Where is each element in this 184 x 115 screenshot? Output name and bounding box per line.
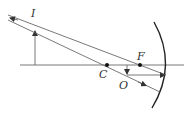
focus-point — [138, 63, 142, 67]
ray-diagram: I F C O — [0, 0, 184, 115]
center-point — [105, 63, 109, 67]
image-label: I — [30, 7, 36, 20]
center-label: C — [99, 68, 108, 81]
ray-center-arrow — [138, 82, 146, 86]
ray-through-focus — [8, 15, 166, 75]
focus-label: F — [136, 50, 145, 63]
object-label: O — [119, 79, 128, 92]
